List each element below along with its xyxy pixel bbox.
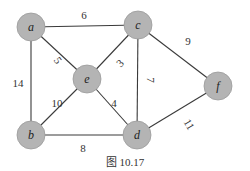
node-label: e: [84, 72, 90, 86]
edge-weight-c-f: 9: [185, 35, 191, 47]
edge-a-c: [31, 25, 138, 27]
node-label: c: [135, 18, 141, 32]
node-a: a: [17, 13, 45, 41]
figure-caption: 图 10.17: [0, 153, 250, 169]
node-d: d: [123, 121, 151, 149]
edge-weight-a-c: 6: [81, 9, 87, 21]
edge-weight-b-d: 8: [80, 142, 86, 154]
edge-weight-c-d: 7: [145, 77, 157, 83]
edge-weight-d-f: 11: [181, 117, 197, 132]
edge-c-d: [137, 25, 138, 135]
node-f: f: [204, 72, 232, 100]
node-label: d: [134, 128, 141, 142]
graph-diagram: 6514310479811 acefbd: [0, 0, 250, 171]
node-label: b: [28, 128, 34, 142]
edge-weight-a-b: 14: [13, 77, 25, 89]
edge-weight-a-e: 5: [52, 54, 65, 66]
node-b: b: [17, 121, 45, 149]
node-e: e: [73, 65, 101, 93]
edge-weight-e-c: 3: [114, 56, 127, 69]
node-label: a: [28, 20, 34, 34]
node-c: c: [124, 11, 152, 39]
edge-weight-e-d: 4: [111, 97, 117, 109]
edge-weight-e-b: 10: [52, 97, 64, 109]
nodes-layer: acefbd: [17, 11, 232, 149]
